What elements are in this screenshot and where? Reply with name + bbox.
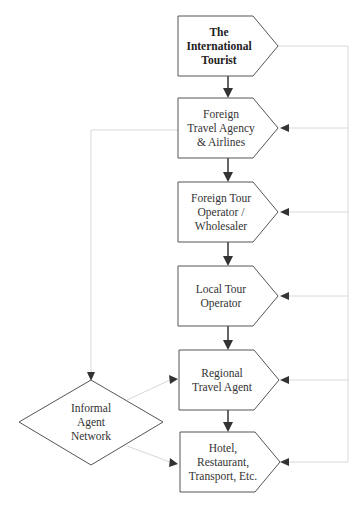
arrowhead-left-icon: [280, 124, 289, 132]
arrowhead-left-icon: [280, 292, 289, 300]
node-label-line: Wholesaler: [195, 219, 247, 233]
node-regional-travel-agent: Regional Travel Agent: [179, 350, 265, 410]
arrowhead-left-icon: [280, 208, 289, 216]
arrowhead-right-icon: [169, 375, 178, 384]
node-label-line: & Airlines: [197, 135, 245, 149]
line-informal-to-regional: [127, 380, 170, 400]
arrowhead-right-icon: [169, 458, 178, 467]
node-label-line: Foreign Tour: [191, 191, 251, 205]
arrowhead-left-icon: [280, 376, 289, 384]
line-foreign-agency-to-informal-network: [91, 130, 178, 374]
feedback-line-main: [278, 46, 348, 462]
node-label-line: Foreign: [203, 107, 239, 121]
arrowhead-down-icon: [223, 422, 233, 432]
arrowhead-left-icon: [280, 458, 289, 466]
node-label-line: Agent: [77, 415, 105, 429]
node-label-line: Regional: [201, 366, 243, 380]
node-label-line: The: [209, 25, 228, 39]
node-label-line: Restaurant,: [197, 455, 249, 469]
node-label-line: Travel Agency: [187, 121, 255, 135]
arrowhead-down-icon: [223, 340, 233, 350]
node-local-tour-operator: Local Tour Operator: [178, 266, 264, 326]
node-label-line: Travel Agent: [192, 380, 252, 394]
feedback-lines-right: [278, 46, 348, 462]
node-label-line: Network: [71, 429, 111, 443]
node-label-line: Local Tour: [196, 282, 246, 296]
node-label-line: Operator /: [198, 205, 245, 219]
arrowhead-down-icon: [223, 172, 233, 182]
node-foreign-travel-agency: Foreign Travel Agency & Airlines: [176, 98, 266, 158]
node-label-line: International: [186, 39, 251, 53]
feedback-arrowheads-right: [280, 124, 289, 466]
line-informal-to-hotel: [127, 446, 170, 462]
node-label-line: Transport, Etc.: [189, 469, 257, 483]
node-hotel-restaurant-transport: Hotel, Restaurant, Transport, Etc.: [180, 432, 266, 492]
node-international-tourist: The International Tourist: [178, 16, 260, 76]
node-label-line: Operator: [201, 296, 242, 310]
node-label-line: Hotel,: [209, 441, 237, 455]
node-label-line: Informal: [71, 401, 111, 415]
arrowhead-down-icon: [223, 256, 233, 266]
arrowhead-down-icon: [223, 88, 233, 98]
node-foreign-tour-operator: Foreign Tour Operator / Wholesaler: [178, 182, 264, 242]
node-label-line: Tourist: [201, 53, 236, 67]
node-informal-agent-network: Informal Agent Network: [51, 392, 131, 452]
